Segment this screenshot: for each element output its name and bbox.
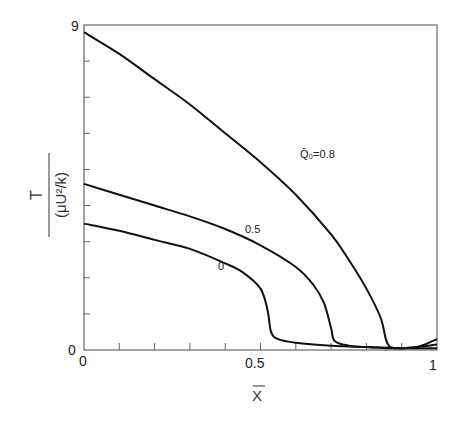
y-tick-9: 9 [71,18,79,34]
y-tick-0: 0 [68,342,76,358]
curve-label-0.8: Q̄₀=0.8 [300,148,335,160]
x-tick-0.5: 0.5 [245,355,265,371]
y-label-denominator: (μU²/k) [52,172,69,218]
chart: 9 0 0 0.5 1 X T (μU²/k) Q̄₀=0.8 0.5 0 [0,0,459,423]
x-tick-0: 0 [79,353,87,369]
y-label-numerator: T [28,190,45,200]
x-tick-1: 1 [429,357,437,373]
y-axis-label: T (μU²/k) [28,153,69,237]
plot-frame [84,25,437,350]
curve-Q̄₀=0.8 [84,32,437,348]
x-axis-label: X [252,387,262,404]
curve-label-0: 0 [218,260,224,272]
y-ticks [84,61,90,314]
curves [84,32,437,348]
curve-label-0.5: 0.5 [245,223,260,235]
curve-0.5 [84,184,437,348]
